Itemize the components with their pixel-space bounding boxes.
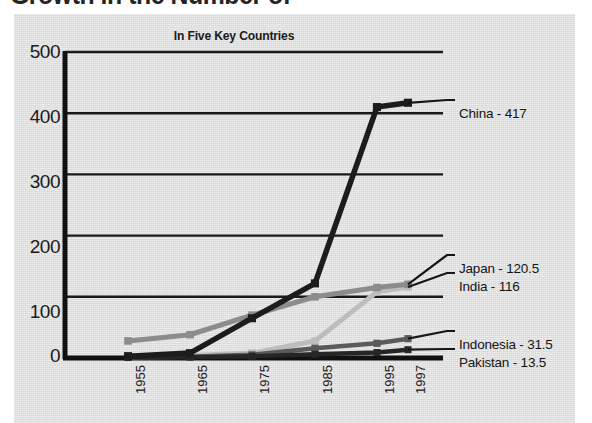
clipped-headline: Growth in the Number of — [0, 0, 592, 14]
label-leader-lines — [408, 100, 455, 350]
gridlines — [65, 52, 443, 297]
series-lines — [124, 99, 412, 361]
chart-screenshot: Growth in the Number of In Five Key Coun… — [0, 0, 592, 423]
chart-panel: In Five Key Countries 500 400 300 200 10… — [14, 14, 575, 423]
headline-text: Growth in the Number of — [10, 0, 291, 11]
plot-area — [14, 14, 575, 423]
